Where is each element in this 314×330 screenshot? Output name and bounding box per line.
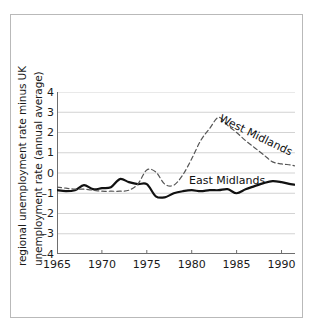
y-axis-label-line-1: regional unemployment rate minus UK (14, 56, 30, 266)
y-tick-label: 3 (38, 107, 54, 118)
x-tick-label: 1990 (268, 258, 296, 271)
x-axis-tick-labels: 196519701975198019851990 (57, 258, 303, 274)
y-axis-tick-labels: 43210–1–2–3–4 (36, 92, 54, 254)
chart-svg (57, 92, 295, 254)
figure-container: regional unemployment rate minus UK unem… (0, 0, 314, 330)
y-tick-label: 1 (38, 147, 54, 158)
x-tick-label: 1975 (133, 258, 161, 271)
y-tick-label: 4 (38, 87, 54, 98)
x-tick-label: 1980 (178, 258, 206, 271)
y-tick-label: –2 (38, 208, 54, 219)
y-tick-label: 2 (38, 127, 54, 138)
x-tick-label: 1985 (223, 258, 251, 271)
y-tick-label: 0 (38, 168, 54, 179)
y-tick-label: –3 (38, 228, 54, 239)
x-tick-label: 1970 (88, 258, 116, 271)
y-tick-label: –1 (38, 188, 54, 199)
x-tick-label: 1965 (43, 258, 71, 271)
gridlines (57, 92, 295, 254)
plot-area (57, 92, 295, 254)
series-label-east-midlands: East Midlands (189, 174, 265, 187)
